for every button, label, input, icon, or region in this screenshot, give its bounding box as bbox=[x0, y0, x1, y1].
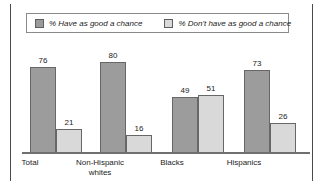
bar-wrap-series-b: 16 bbox=[126, 40, 152, 153]
bar-value-label: 16 bbox=[135, 124, 144, 133]
frame-rule-left bbox=[10, 4, 11, 181]
bar-pair: 49 51 bbox=[172, 40, 224, 153]
legend-label-series-a: % Have as good a chance bbox=[49, 19, 142, 28]
bar-pair: 73 26 bbox=[244, 40, 296, 153]
chart-figure: % Have as good a chance % Don't have as … bbox=[0, 0, 328, 185]
legend-swatch-icon-series-b bbox=[164, 19, 173, 28]
bar-series-a bbox=[100, 62, 126, 153]
bar-series-a bbox=[244, 70, 270, 153]
x-axis-label-line1: Hispanics bbox=[201, 158, 287, 168]
bar-value-label: 26 bbox=[279, 112, 288, 121]
bar-value-label: 73 bbox=[253, 59, 262, 68]
bar-value-label: 80 bbox=[109, 51, 118, 60]
bar-series-a bbox=[30, 67, 56, 153]
legend-item-dont-have-as-good-a-chance: % Don't have as good a chance bbox=[164, 19, 291, 28]
x-axis-label-hispanics: Hispanics bbox=[201, 158, 287, 168]
bar-series-b bbox=[56, 129, 82, 153]
legend-swatch-icon-series-a bbox=[35, 19, 44, 28]
bar-pair: 80 16 bbox=[100, 40, 152, 153]
x-axis-label-line2: whites bbox=[57, 168, 143, 178]
bar-value-label: 51 bbox=[207, 84, 216, 93]
bar-wrap-series-a: 73 bbox=[244, 40, 270, 153]
frame-rule-right bbox=[312, 4, 313, 181]
bar-series-b bbox=[126, 135, 152, 153]
bar-series-b bbox=[198, 95, 224, 153]
bar-wrap-series-b: 51 bbox=[198, 40, 224, 153]
bar-wrap-series-b: 26 bbox=[270, 40, 296, 153]
legend-label-series-b: % Don't have as good a chance bbox=[178, 19, 291, 28]
chart-legend: % Have as good a chance % Don't have as … bbox=[26, 13, 289, 33]
plot-area: 76 21 80 16 bbox=[22, 40, 310, 153]
bar-wrap-series-a: 49 bbox=[172, 40, 198, 153]
bar-value-label: 76 bbox=[39, 56, 48, 65]
bar-wrap-series-a: 76 bbox=[30, 40, 56, 153]
bar-series-a bbox=[172, 97, 198, 153]
bar-wrap-series-b: 21 bbox=[56, 40, 82, 153]
legend-item-have-as-good-a-chance: % Have as good a chance bbox=[35, 19, 142, 28]
bar-value-label: 49 bbox=[181, 86, 190, 95]
bar-pair: 76 21 bbox=[30, 40, 82, 153]
x-axis-line bbox=[22, 152, 310, 154]
bar-series-b bbox=[270, 123, 296, 153]
bar-wrap-series-a: 80 bbox=[100, 40, 126, 153]
bar-value-label: 21 bbox=[65, 118, 74, 127]
